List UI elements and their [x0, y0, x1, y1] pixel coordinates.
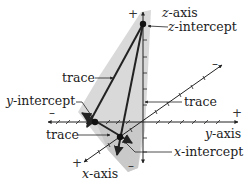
trace-label-middle: trace — [184, 96, 217, 109]
z-axis-label: z-axis — [162, 7, 198, 20]
z-axis-plus-sign: + — [128, 8, 138, 20]
trace-label-bottom: trace — [46, 129, 79, 142]
x-intercept-point — [117, 134, 123, 140]
x-axis-minus-sign: – — [212, 58, 218, 70]
x-intercept-label: x-intercept — [174, 146, 243, 159]
z-intercept-label: z-intercept — [168, 21, 237, 34]
y-intercept-point — [92, 119, 98, 125]
y-axis-plus-sign: + — [232, 107, 242, 119]
x-axis-label: x-axis — [82, 168, 118, 181]
y-intercept-label: y-intercept — [6, 95, 75, 108]
plane-diagram: + – + – + – z-axis z-intercept trace y-i… — [0, 0, 248, 185]
z-intercept-leader — [148, 26, 168, 27]
z-axis-minus-sign: – — [128, 160, 134, 172]
trace-label-top: trace — [62, 72, 95, 85]
y-axis-label: y-axis — [205, 128, 241, 141]
x-axis-plus-sign: + — [72, 157, 82, 169]
y-axis-minus-sign: – — [49, 107, 55, 119]
z-intercept-point — [140, 21, 146, 27]
